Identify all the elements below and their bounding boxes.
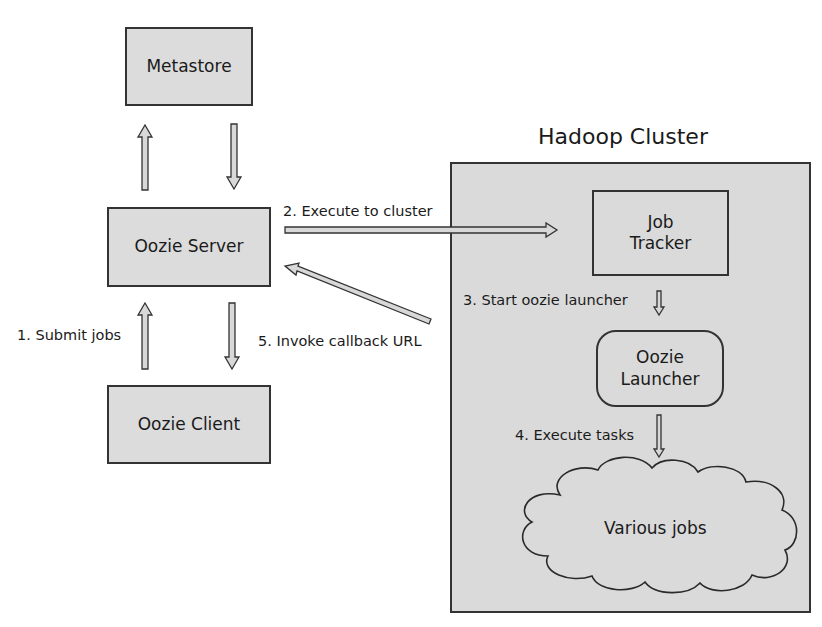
edge-label-submit-jobs: 1. Submit jobs — [17, 327, 121, 343]
edge-label-execute-to-cluster: 2. Execute to cluster — [283, 203, 433, 219]
arrow-invoke-callback — [285, 263, 431, 324]
edge-label-invoke-callback: 5. Invoke callback URL — [258, 333, 422, 349]
arrow-start-launcher — [654, 291, 664, 315]
arrow-down-from-metastore — [227, 124, 241, 189]
arrow-execute-tasks — [654, 415, 664, 457]
arrow-execute-to-cluster — [285, 223, 557, 237]
edge-label-execute-tasks: 4. Execute tasks — [515, 427, 634, 443]
arrow-up-to-metastore — [138, 125, 152, 190]
arrow-callback-down — [225, 303, 239, 369]
various-jobs-label: Various jobs — [604, 518, 707, 538]
edge-label-start-launcher: 3. Start oozie launcher — [463, 292, 628, 308]
arrow-submit-jobs — [138, 303, 152, 369]
